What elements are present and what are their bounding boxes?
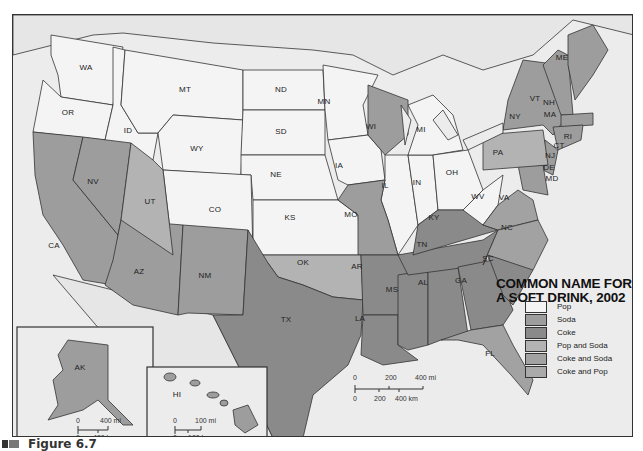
scale-label: 0 <box>353 374 357 381</box>
state-label-oh: OH <box>446 168 458 177</box>
state-label-sc: SC <box>482 254 494 263</box>
state-label-co: CO <box>209 205 221 214</box>
state-label-ga: GA <box>455 276 467 285</box>
state-label-nc: NC <box>501 223 513 232</box>
legend-item-coke: Coke <box>525 326 612 339</box>
legend-items: Pop Soda Coke Pop and Soda Coke and Soda… <box>525 300 612 378</box>
state-label-al: AL <box>418 278 428 287</box>
caption-bars-icon <box>2 440 20 448</box>
state-label-ar: AR <box>351 262 363 271</box>
state-label-ia: IA <box>335 161 343 170</box>
state-label-nj: NJ <box>545 151 555 160</box>
scale-label: 0 <box>76 417 80 424</box>
state-label-ne: NE <box>270 170 282 179</box>
state-label-tx: TX <box>281 315 292 324</box>
legend-item-coke-and-soda: Coke and Soda <box>525 352 612 365</box>
scale-label: 0 <box>353 395 357 402</box>
state-label-nm: NM <box>199 271 212 280</box>
state-label-md: MD <box>546 174 559 183</box>
state-label-mo: MO <box>344 210 357 219</box>
state-label-hi: HI <box>173 390 181 399</box>
legend-item-pop-and-soda: Pop and Soda <box>525 339 612 352</box>
scale-label: 100 km <box>188 434 211 437</box>
state-label-or: OR <box>62 108 74 117</box>
state-label-nd: ND <box>275 85 287 94</box>
state-label-mn: MN <box>318 97 331 106</box>
state-label-nv: NV <box>87 177 99 186</box>
state-label-vt: VT <box>530 94 541 103</box>
legend-item-coke-and-pop: Coke and Pop <box>525 365 612 378</box>
state-label-wa: WA <box>80 63 93 72</box>
main-scale-bar <box>355 385 423 393</box>
state-label-id: ID <box>124 126 132 135</box>
state-label-ms: MS <box>386 285 398 294</box>
state-label-nh: NH <box>543 98 555 107</box>
state-label-wy: WY <box>190 144 203 153</box>
scale-label: 0 <box>173 417 177 424</box>
scale-label: 0 <box>173 434 177 437</box>
state-label-tn: TN <box>416 240 427 249</box>
state-label-fl: FL <box>485 349 495 358</box>
state-label-ok: OK <box>297 258 309 267</box>
state-label-ak: AK <box>74 363 85 372</box>
state-label-ca: CA <box>48 241 60 250</box>
state-label-az: AZ <box>134 267 145 276</box>
figure-caption: Figure 6.7 <box>2 437 97 451</box>
legend-item-pop: Pop <box>525 300 612 313</box>
scale-label: 400 mi <box>415 374 436 381</box>
scale-label: 200 <box>385 374 397 381</box>
state-label-ct: CT <box>553 141 564 150</box>
state-label-mt: MT <box>179 85 191 94</box>
state-label-me: ME <box>556 53 568 62</box>
alaska-inset <box>17 327 153 437</box>
state-label-va: VA <box>499 193 509 202</box>
state-label-pa: PA <box>493 148 503 157</box>
legend-item-soda: Soda <box>525 313 612 326</box>
state-label-wv: WV <box>471 192 484 201</box>
scale-label: 400 mi <box>100 417 121 424</box>
figure-caption-text: Figure 6.7 <box>28 437 97 451</box>
scale-label: 200 <box>374 395 386 402</box>
state-label-sd: SD <box>275 127 287 136</box>
state-label-ky: KY <box>428 213 439 222</box>
state-label-wi: WI <box>366 122 376 131</box>
state-label-de: DE <box>543 163 555 172</box>
state-label-in: IN <box>413 178 421 187</box>
hawaii-inset <box>147 367 267 437</box>
scale-label: 100 mi <box>195 417 216 424</box>
state-label-la: LA <box>355 314 365 323</box>
state-label-il: IL <box>381 181 388 190</box>
state-label-mi: MI <box>416 125 425 134</box>
state-label-ks: KS <box>284 213 295 222</box>
state-label-ny: NY <box>509 112 521 121</box>
state-label-ut: UT <box>144 197 155 206</box>
map-frame: WA OR ID MT WY ND SD NE CO KS MN IA WI I… <box>12 14 633 437</box>
state-label-ri: RI <box>564 132 572 141</box>
scale-label: 400 km <box>395 395 418 402</box>
state-label-ma: MA <box>544 110 556 119</box>
